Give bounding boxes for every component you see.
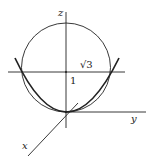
sqrt3-label: √3 — [80, 59, 93, 70]
one-label: 1 — [70, 75, 76, 86]
z-axis-label: z — [57, 7, 64, 18]
y-axis-label: y — [130, 113, 137, 124]
paraboloid-sphere-diagram: z y x √3 1 — [0, 0, 156, 163]
center-point — [65, 71, 67, 73]
x-axis-label: x — [22, 140, 28, 151]
paraboloid-curve — [15, 58, 119, 112]
origin-point — [65, 111, 67, 113]
